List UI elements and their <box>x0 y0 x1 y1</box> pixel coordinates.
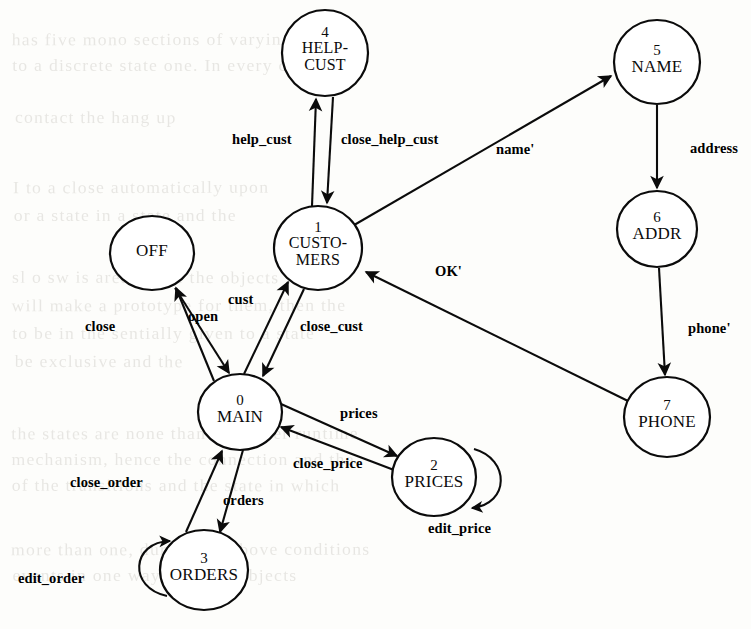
state-diagram-canvas <box>0 0 751 629</box>
transition-label-ok_prime: OK' <box>435 263 462 280</box>
transition-label-close_order: close_order <box>70 474 143 491</box>
state-node-orders <box>160 530 248 610</box>
edge-ok-prime <box>366 272 628 401</box>
state-node-addr <box>617 191 697 267</box>
transition-label-orders: orders <box>223 492 264 509</box>
transition-label-address: address <box>690 140 738 157</box>
transition-label-open: open <box>188 308 218 325</box>
edge-help-cust <box>312 99 316 206</box>
transition-label-close: close <box>85 318 115 335</box>
edge-close-cust <box>263 289 304 376</box>
edge-close <box>176 288 214 381</box>
transition-label-close_cust: close_cust <box>300 318 363 335</box>
transition-label-cust: cust <box>228 291 253 308</box>
state-node-customers <box>274 206 362 290</box>
edge-phone-prime <box>659 268 665 375</box>
state-node-main <box>198 374 282 450</box>
transition-label-phone_prime: phone' <box>688 320 731 337</box>
transition-label-prices: prices <box>340 405 378 422</box>
state-node-off <box>110 216 194 290</box>
transition-edges <box>139 76 665 596</box>
state-node-name <box>614 20 700 104</box>
transition-label-close_help_cust: close_help_cust <box>341 131 438 148</box>
transition-label-help_cust: help_cust <box>232 131 292 148</box>
transition-label-close_price: close_price <box>293 455 363 472</box>
edge-open <box>175 288 229 373</box>
state-node-helpcust <box>282 10 368 96</box>
transition-label-edit_price: edit_price <box>428 520 491 537</box>
state-diagram-figure: has five mono sections of varying sizest… <box>0 0 751 629</box>
transition-label-name_prime: name' <box>496 141 534 158</box>
edge-close-help-cust <box>327 97 333 203</box>
edge-close-order <box>186 451 222 532</box>
transition-label-edit_order: edit_order <box>18 570 84 587</box>
edge-name-prime <box>349 76 611 228</box>
edge-orders <box>220 450 243 532</box>
state-node-phone <box>624 377 710 457</box>
state-node-prices <box>392 438 476 516</box>
